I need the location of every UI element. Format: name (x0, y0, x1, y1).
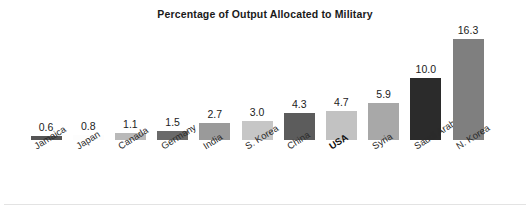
bar-value-label: 4.3 (292, 98, 307, 110)
bar-group: 16.3 (453, 39, 484, 140)
bar[interactable] (453, 39, 484, 140)
bar-value-label: 10.0 (416, 63, 436, 75)
bar-value-label: 16.3 (458, 24, 478, 36)
bar-value-label: 2.7 (207, 108, 222, 120)
bar-value-label: 3.0 (250, 106, 265, 118)
plot-area: 0.6Jamaica0.8Japan1.1Canada1.5Germany2.7… (0, 0, 530, 208)
bar-value-label: 1.5 (165, 116, 180, 128)
bar-value-label: 5.9 (376, 88, 391, 100)
chart-figure: Percentage of Output Allocated to Milita… (0, 0, 530, 208)
figure-bottom-rule (4, 204, 526, 205)
x-axis-label: Japan (74, 128, 102, 151)
bar-value-label: 4.7 (334, 96, 349, 108)
